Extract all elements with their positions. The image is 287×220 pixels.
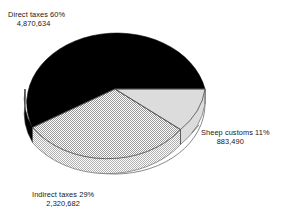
label-indirect-taxes: Indirect taxes 29% 2,320,682: [32, 190, 94, 209]
label-direct-taxes: Direct taxes 60% 4,870,634: [8, 10, 65, 29]
label-indirect-taxes-title: Indirect taxes 29%: [32, 190, 94, 199]
label-indirect-taxes-value: 2,320,682: [32, 199, 94, 208]
pie-chart-graphic: [0, 0, 287, 220]
label-direct-taxes-title: Direct taxes 60%: [8, 10, 65, 19]
label-sheep-customs-value: 883,490: [201, 137, 270, 146]
label-sheep-customs: Sheep customs 11% 883,490: [201, 128, 270, 147]
pie-chart-figure: Direct taxes 60% 4,870,634 Sheep customs…: [0, 0, 287, 220]
label-sheep-customs-title: Sheep customs 11%: [201, 128, 270, 137]
label-direct-taxes-value: 4,870,634: [8, 19, 65, 28]
